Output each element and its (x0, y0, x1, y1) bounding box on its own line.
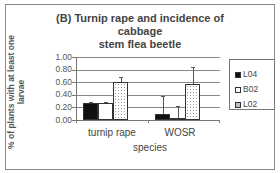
y-tick-label: 1.00 (48, 53, 72, 62)
legend-swatch-icon (235, 87, 241, 93)
plot-area (76, 57, 220, 120)
error-bar-cap (176, 106, 180, 107)
y-tick-label: 0.80 (48, 65, 72, 74)
x-tick-mark (76, 120, 77, 123)
error-bar (163, 96, 164, 114)
x-tick-mark (148, 120, 149, 123)
x-category-wosr: WOSR (145, 127, 215, 138)
bar-b02-turnip-rape (98, 103, 113, 120)
chart-title-line-1: (B) Turnip rape and incidence of cabbage (40, 12, 240, 38)
legend-swatch-icon (235, 72, 241, 78)
bar-l02-wosr (185, 84, 200, 120)
error-bar-cap (104, 102, 108, 103)
legend-label: B02 (243, 85, 258, 94)
legend-swatch-icon (235, 102, 241, 108)
chart-title-line-2: stem flea beetle (40, 38, 240, 51)
legend-item-l04: L04 (235, 70, 257, 79)
x-axis-label: species (120, 142, 180, 153)
legend: L04 B02 L02 (229, 59, 275, 110)
y-tick-label: 0.40 (48, 90, 72, 99)
error-bar-cap (89, 102, 93, 103)
error-bar-cap (161, 96, 165, 97)
gridline (76, 70, 220, 71)
y-axis-label: % of plants with at least one larvae (6, 30, 26, 154)
x-tick-mark (219, 120, 220, 123)
error-bar (193, 67, 194, 84)
legend-item-l02: L02 (235, 100, 257, 109)
error-bar-cap (119, 77, 123, 78)
bar-l04-turnip-rape (83, 103, 98, 120)
y-tick-label: 0.60 (48, 78, 72, 87)
y-axis (76, 57, 77, 121)
bar-l02-turnip-rape (113, 82, 128, 120)
legend-label: L04 (243, 70, 257, 79)
gridline (76, 57, 220, 58)
legend-item-b02: B02 (235, 85, 258, 94)
x-category-turnip-rape: turnip rape (77, 127, 147, 138)
chart-title: (B) Turnip rape and incidence of cabbage… (40, 12, 240, 51)
gridline (76, 82, 220, 83)
legend-label: L02 (243, 100, 257, 109)
y-tick-label: 0.00 (48, 116, 72, 125)
y-tick-label: 0.20 (48, 103, 72, 112)
error-bar-cap (191, 67, 195, 68)
error-bar (178, 106, 179, 119)
